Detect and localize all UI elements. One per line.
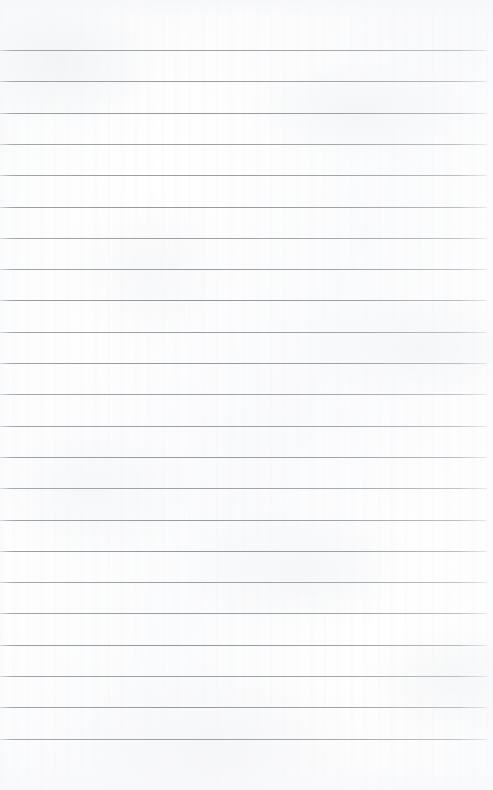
writing-area[interactable] <box>0 0 493 790</box>
notebook-page <box>0 0 493 790</box>
